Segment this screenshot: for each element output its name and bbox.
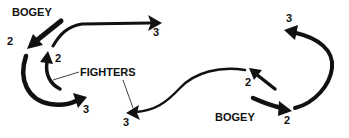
bogey-position-2-right: 2 — [284, 114, 290, 126]
bogey-position-3-right: 3 — [286, 12, 292, 24]
left-scenario: BOGEY 2 3 2 3 — [7, 6, 162, 115]
bogey-label-left: BOGEY — [12, 6, 52, 18]
bogey-label-right: BOGEY — [215, 111, 255, 123]
fighters-callout: FIGHTERS — [53, 66, 136, 108]
fighter-position-3-left: 3 — [153, 26, 159, 38]
bogey-arrow-left — [27, 21, 61, 49]
fighter-arrow-right — [249, 68, 275, 89]
maneuver-diagram: BOGEY 2 3 2 3 FIGHTERS — [0, 0, 349, 138]
leader-line-left — [53, 72, 79, 80]
bogey-position-3-left: 3 — [83, 103, 89, 115]
bogey-position-2-left: 2 — [7, 35, 13, 47]
leader-line-right — [123, 80, 133, 108]
fighter-position-2-right: 2 — [245, 76, 251, 88]
fighter-position-2-left: 2 — [55, 52, 61, 64]
fighters-label: FIGHTERS — [80, 66, 136, 78]
fighter-extension-arrow — [53, 15, 162, 46]
fighter-position-3-right: 3 — [123, 116, 129, 128]
bogey-climb-arrow-right — [284, 25, 332, 108]
